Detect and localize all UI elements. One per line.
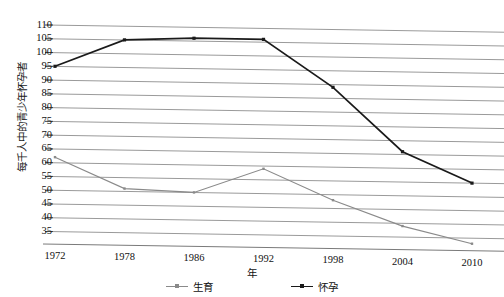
legend-item-births[interactable]: 生育 — [166, 279, 213, 294]
x-axis-ticks: 1972197819861992199820042010 — [0, 0, 504, 297]
legend-label-births: 生育 — [193, 279, 213, 294]
legend-label-pregnancy: 怀孕 — [318, 279, 338, 294]
x-tick-label: 1992 — [234, 253, 294, 264]
chart-legend: 生育 怀孕 — [0, 277, 504, 295]
legend-marker-pregnancy-icon — [291, 282, 313, 290]
teen-pregnancy-line-chart: 每千人中的青少年怀孕者 1101051009590858075706560555… — [0, 0, 504, 297]
x-tick-label: 1972 — [25, 250, 85, 261]
x-tick-label: 1986 — [164, 252, 224, 263]
x-tick-label: 1978 — [95, 251, 155, 262]
legend-marker-births-icon — [166, 282, 188, 290]
legend-item-pregnancy[interactable]: 怀孕 — [291, 279, 338, 294]
x-tick-label: 1998 — [303, 254, 363, 265]
